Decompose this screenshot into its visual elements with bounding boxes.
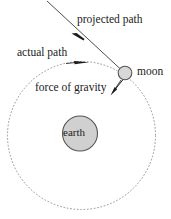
orbit-diagram: projected path actual path force of grav…: [0, 0, 171, 219]
projected-path-line: [47, 1, 122, 70]
label-earth: earth: [63, 127, 85, 138]
label-force-of-gravity: force of gravity: [35, 82, 107, 94]
label-projected-path: projected path: [77, 14, 142, 26]
moon-body: [118, 66, 132, 80]
diagram-canvas: [0, 0, 171, 219]
label-moon: moon: [137, 66, 163, 78]
force-of-gravity-leader: [113, 80, 121, 92]
label-actual-path: actual path: [17, 47, 67, 59]
